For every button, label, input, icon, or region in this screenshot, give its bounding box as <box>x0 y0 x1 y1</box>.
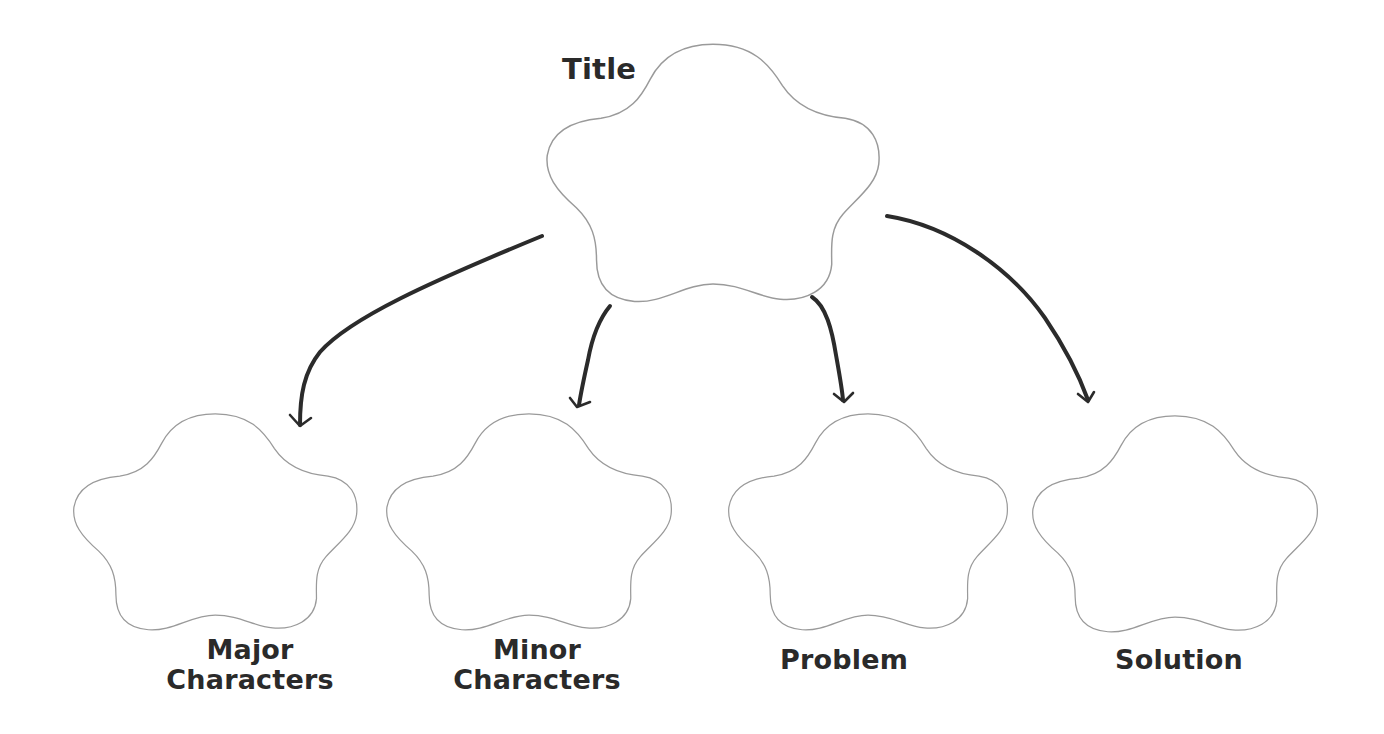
arrow-to-solution <box>887 216 1094 402</box>
major-characters-label-line2: Characters <box>150 665 350 695</box>
minor-characters-label: Minor Characters <box>437 635 637 695</box>
title-label: Title <box>562 53 642 85</box>
solution-label: Solution <box>1089 645 1269 675</box>
solution-flower[interactable] <box>1033 416 1318 632</box>
major-characters-label: Major Characters <box>150 635 350 695</box>
diagram-canvas <box>0 0 1384 734</box>
arrow-to-problem <box>812 297 853 402</box>
major-characters-label-line1: Major <box>150 635 350 665</box>
solution-label-line1: Solution <box>1089 645 1269 675</box>
minor-characters-label-line2: Characters <box>437 665 637 695</box>
arrow-to-minor-characters <box>570 306 610 407</box>
problem-label: Problem <box>764 645 924 675</box>
problem-flower[interactable] <box>729 414 1008 630</box>
minor-characters-flower[interactable] <box>387 414 672 630</box>
arrow-to-major-characters <box>290 236 542 426</box>
problem-label-line1: Problem <box>764 645 924 675</box>
major-characters-flower[interactable] <box>74 414 357 630</box>
minor-characters-label-line1: Minor <box>437 635 637 665</box>
